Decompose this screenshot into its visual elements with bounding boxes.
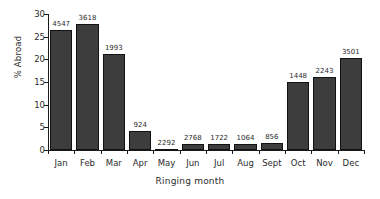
bar — [208, 144, 231, 150]
bar — [50, 30, 73, 150]
x-tick — [48, 150, 49, 154]
x-axis-label: Jul — [214, 158, 224, 168]
bar — [261, 143, 284, 150]
x-axis-label: Dec — [343, 158, 359, 168]
bar — [182, 144, 205, 150]
x-axis-label: Mar — [106, 158, 122, 168]
x-tick — [206, 150, 207, 154]
bar-value-label: 1448 — [289, 72, 307, 80]
bar-value-label: 2243 — [316, 67, 334, 75]
bar — [129, 131, 152, 150]
bar-value-label: 2768 — [184, 134, 202, 142]
x-axis-label: Jun — [186, 158, 199, 168]
x-axis-title: Ringing month — [0, 176, 380, 186]
bar-value-label: 1064 — [237, 134, 255, 142]
y-tick-label: 5 — [40, 122, 45, 132]
bar-value-label: 924 — [133, 121, 146, 129]
bar-value-label: 2292 — [158, 139, 176, 147]
x-tick — [338, 150, 339, 154]
bar-value-label: 856 — [265, 133, 278, 141]
x-axis-label: May — [158, 158, 176, 168]
bar-value-label: 1722 — [210, 134, 228, 142]
x-tick — [232, 150, 233, 154]
y-axis-title: % Abroad — [13, 11, 23, 103]
y-tick-label: 30 — [34, 9, 45, 19]
plot-area: 051015202530 454736181993924229227681722… — [48, 14, 364, 150]
x-tick — [259, 150, 260, 154]
bar — [234, 144, 257, 150]
bar-value-label: 4547 — [52, 20, 70, 28]
y-tick-label: 25 — [34, 32, 45, 42]
y-tick-label: 10 — [34, 100, 45, 110]
x-tick — [74, 150, 75, 154]
x-axis-label: Feb — [80, 158, 95, 168]
x-tick — [311, 150, 312, 154]
bar-value-label: 3501 — [342, 48, 360, 56]
x-tick — [285, 150, 286, 154]
bar-chart: % Abroad 051015202530 454736181993924229… — [0, 0, 380, 199]
bar-value-label: 3618 — [79, 14, 97, 22]
bar — [340, 58, 363, 150]
x-axis-label: Oct — [291, 158, 306, 168]
x-axis-label: Jan — [55, 158, 68, 168]
x-axis-label: Sept — [262, 158, 281, 168]
y-tick-label: 20 — [34, 54, 45, 64]
bar — [103, 54, 126, 150]
bar — [76, 24, 99, 150]
x-tick — [127, 150, 128, 154]
x-tick — [101, 150, 102, 154]
bar — [155, 149, 178, 151]
bar — [313, 77, 336, 150]
x-tick — [153, 150, 154, 154]
y-tick-label: 0 — [40, 145, 45, 155]
x-axis-label: Aug — [237, 158, 254, 168]
y-tick-label: 15 — [34, 77, 45, 87]
x-axis-label: Apr — [133, 158, 148, 168]
x-tick — [180, 150, 181, 154]
bar — [287, 82, 310, 150]
x-tick — [364, 150, 365, 154]
bar-value-label: 1993 — [105, 44, 123, 52]
x-axis-label: Nov — [316, 158, 333, 168]
